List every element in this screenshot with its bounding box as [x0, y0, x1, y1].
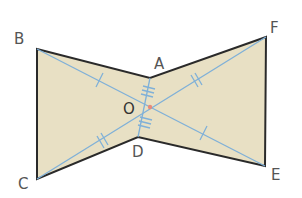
center-point-O: [148, 105, 152, 109]
label-F: F: [270, 19, 279, 37]
bowtie-diagram: B A F O D C E: [0, 0, 302, 198]
label-A: A: [154, 55, 165, 73]
label-O: O: [123, 100, 135, 118]
label-D: D: [132, 143, 144, 161]
label-B: B: [14, 30, 24, 48]
label-C: C: [18, 175, 28, 193]
label-E: E: [271, 166, 280, 184]
